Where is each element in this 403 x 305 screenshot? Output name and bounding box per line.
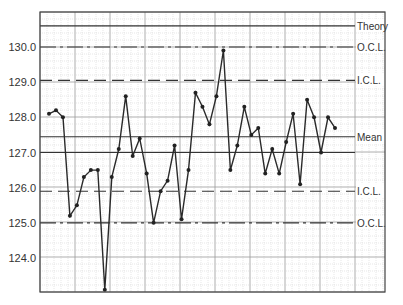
data-point	[103, 288, 107, 292]
data-point	[68, 214, 72, 218]
data-point	[221, 49, 225, 53]
data-point	[96, 168, 100, 172]
data-point	[54, 108, 58, 112]
y-axis-ticks: 124.0125.0126.0127.0128.0129.0130.0	[8, 41, 36, 264]
data-point	[187, 168, 191, 172]
data-point	[152, 221, 156, 225]
data-point	[166, 179, 170, 183]
data-point	[117, 147, 121, 151]
data-point	[235, 143, 239, 147]
data-point	[249, 133, 253, 137]
data-point	[207, 122, 211, 126]
data-point	[305, 98, 309, 102]
data-point	[270, 147, 274, 151]
data-point	[326, 115, 330, 119]
data-point	[214, 94, 218, 98]
data-point	[47, 112, 51, 116]
y-tick-label: 127.0	[8, 147, 36, 159]
data-point	[145, 172, 149, 176]
data-point	[159, 189, 163, 193]
data-point	[277, 172, 281, 176]
data-point	[193, 91, 197, 95]
ref-theory-label: Theory	[357, 21, 388, 32]
data-series	[47, 49, 337, 292]
data-point	[138, 136, 142, 140]
data-point	[82, 175, 86, 179]
data-point	[319, 151, 323, 155]
data-point	[284, 140, 288, 144]
control-chart: 124.0125.0126.0127.0128.0129.0130.0 Theo…	[0, 0, 403, 305]
y-tick-label: 130.0	[8, 41, 36, 53]
ref-icl-lower-label: I.C.L.	[357, 186, 381, 197]
data-point	[256, 126, 260, 130]
reference-lines	[40, 26, 355, 223]
data-point	[180, 217, 184, 221]
y-tick-label: 125.0	[8, 217, 36, 229]
data-point	[228, 168, 232, 172]
ref-mean-label: Mean	[357, 132, 382, 143]
data-point	[333, 126, 337, 130]
data-point	[291, 112, 295, 116]
data-point	[242, 105, 246, 109]
data-point	[173, 143, 177, 147]
data-point	[131, 154, 135, 158]
data-point	[263, 172, 267, 176]
y-tick-label: 126.0	[8, 182, 36, 194]
data-point	[298, 182, 302, 186]
data-point	[61, 115, 65, 119]
data-point	[312, 115, 316, 119]
y-tick-label: 128.0	[8, 111, 36, 123]
y-tick-label: 129.0	[8, 76, 36, 88]
data-point	[75, 203, 79, 207]
data-point	[89, 168, 93, 172]
ref-icl-upper-label: I.C.L.	[357, 75, 381, 86]
data-point	[110, 175, 114, 179]
y-tick-label: 124.0	[8, 252, 36, 264]
ref-ocl-lower-label: O.C.L.	[357, 218, 386, 229]
data-point	[124, 94, 128, 98]
ref-ocl-upper-label: O.C.L.	[357, 42, 386, 53]
data-point	[200, 105, 204, 109]
